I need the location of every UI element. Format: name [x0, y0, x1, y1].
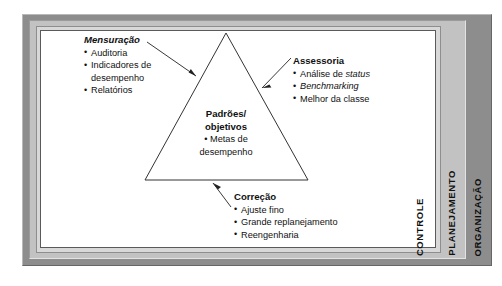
callout-heading-assessoria: Assessoria	[293, 55, 370, 67]
list-item: Ajuste fino	[234, 204, 338, 216]
side-label-organizacao: ORGANIZAÇÃO	[472, 178, 483, 256]
list-item-emphasis: status	[345, 69, 370, 79]
list-item: Melhor da classe	[293, 93, 370, 105]
list-item: Auditoria	[84, 47, 151, 59]
list-item: Indicadores de	[84, 59, 151, 71]
callout-list-assessoria: Análise de status Benchmarking Melhor da…	[293, 68, 370, 105]
list-item-continuation: desempenho	[84, 72, 151, 84]
list-item: Benchmarking	[293, 80, 370, 92]
center-heading-line1: Padrões/	[162, 108, 290, 121]
side-label-planejamento: PLANEJAMENTO	[446, 170, 457, 256]
center-bullet-line2: desempenho	[199, 147, 252, 157]
callout-heading-mensuracao: Mensuração	[84, 34, 151, 46]
side-label-controle: CONTROLE	[414, 198, 425, 256]
callout-list-correcao: Ajuste fino Grande replanejamento Reenge…	[234, 204, 338, 241]
list-item-text: Análise de	[300, 69, 345, 79]
callout-assessoria: Assessoria Análise de status Benchmarkin…	[293, 55, 370, 105]
list-item: Relatórios	[84, 84, 151, 96]
list-item: Reengenharia	[234, 229, 338, 241]
management-cycle-diagram: CONTROLE PLANEJAMENTO ORGANIZAÇÃO Padrõe…	[0, 0, 502, 286]
triangle-center-label: Padrões/ objetivos • Metas de desempenho	[162, 108, 290, 158]
list-item: Grande replanejamento	[234, 216, 338, 228]
callout-heading-correcao: Correção	[234, 191, 338, 203]
center-heading-line2: objetivos	[162, 121, 290, 134]
list-item-emphasis: Benchmarking	[300, 81, 359, 91]
callout-correcao: Correção Ajuste fino Grande replanejamen…	[234, 191, 338, 241]
list-item: Análise de status	[293, 68, 370, 80]
callout-mensuracao: Mensuração Auditoria Indicadores de dese…	[84, 34, 151, 97]
callout-list-mensuracao: Auditoria Indicadores de desempenho Rela…	[84, 47, 151, 97]
center-bullet-line1: • Metas de	[204, 134, 248, 144]
